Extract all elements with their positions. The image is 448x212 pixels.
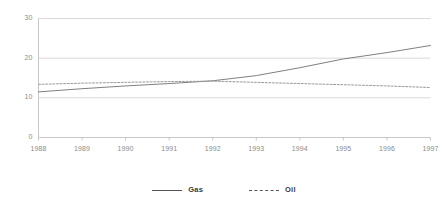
series-line-gas xyxy=(39,45,431,91)
legend-swatch-solid xyxy=(152,187,182,194)
x-axis-tick-label: 1997 xyxy=(411,145,448,153)
x-axis-tick-label: 1988 xyxy=(19,145,59,153)
legend-label: Oil xyxy=(285,186,296,194)
line-chart: 0102030 19881989199019911992199319941995… xyxy=(0,0,448,212)
y-axis-tick-label: 10 xyxy=(9,93,33,101)
x-axis-tick-label: 1990 xyxy=(106,145,146,153)
x-axis-tick-label: 1996 xyxy=(367,145,407,153)
x-axis-tick-label: 1994 xyxy=(280,145,320,153)
chart-legend: GasOil xyxy=(0,186,448,194)
chart-canvas xyxy=(0,0,448,212)
y-axis-tick-label: 0 xyxy=(9,133,33,141)
x-axis-tick-label: 1991 xyxy=(149,145,189,153)
series-lines xyxy=(39,45,431,91)
legend-label: Gas xyxy=(188,186,203,194)
series-line-oil xyxy=(39,81,431,87)
x-axis-tick-label: 1995 xyxy=(323,145,363,153)
legend-item-gas[interactable]: Gas xyxy=(152,186,203,194)
x-axis-tick-label: 1992 xyxy=(193,145,233,153)
legend-item-oil[interactable]: Oil xyxy=(249,186,296,194)
legend-swatch-dashed xyxy=(249,187,279,194)
x-axis-tick-label: 1993 xyxy=(236,145,276,153)
x-axis-tick-label: 1989 xyxy=(62,145,102,153)
y-axis-tick-label: 20 xyxy=(9,54,33,62)
y-axis-tick-label: 30 xyxy=(9,14,33,22)
